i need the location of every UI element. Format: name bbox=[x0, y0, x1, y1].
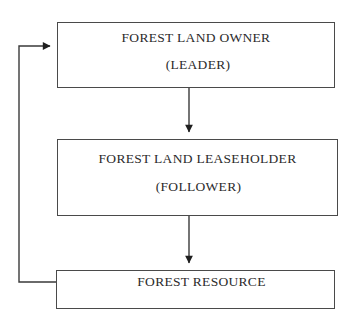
node-forest-land-leaseholder[interactable]: FOREST LAND LEASEHOLDER (FOLLOWER) bbox=[57, 139, 338, 216]
node-forest-land-owner-secondary-label: (LEADER) bbox=[166, 57, 231, 73]
node-forest-land-owner[interactable]: FOREST LAND OWNER (LEADER) bbox=[57, 22, 335, 88]
node-forest-resource[interactable]: FOREST RESOURCE bbox=[56, 270, 335, 309]
diagram-canvas: FOREST LAND OWNER (LEADER) FOREST LAND L… bbox=[0, 0, 356, 326]
node-forest-land-owner-primary-label: FOREST LAND OWNER bbox=[122, 30, 271, 46]
connector-resource-to-owner-feedback bbox=[19, 46, 57, 282]
node-forest-land-leaseholder-primary-label: FOREST LAND LEASEHOLDER bbox=[99, 151, 297, 167]
node-forest-resource-primary-label: FOREST RESOURCE bbox=[137, 274, 265, 290]
node-forest-land-leaseholder-secondary-label: (FOLLOWER) bbox=[156, 179, 241, 195]
